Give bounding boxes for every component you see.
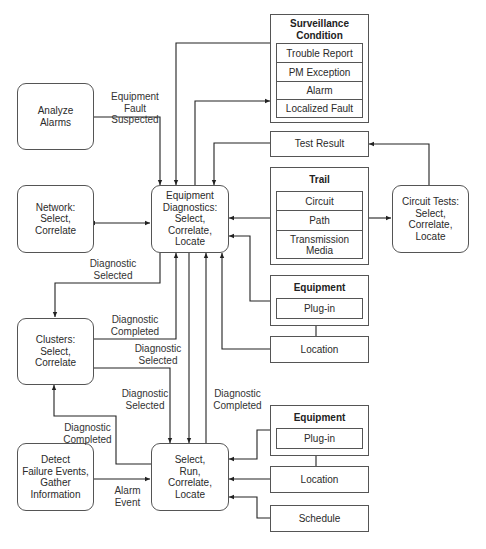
item-pm-exception: PM Exception <box>277 63 362 82</box>
group-title: Surveillance Condition <box>271 18 368 41</box>
entity-location-lower: Location <box>270 466 369 493</box>
edge-test-result-to-ed <box>214 143 270 185</box>
entity-schedule: Schedule <box>270 505 369 532</box>
edge-label-diagnostic-completed: Diagnostic Completed <box>210 388 265 411</box>
process-label: Circuit Tests: Select, Correlate, Locate <box>402 196 459 242</box>
item-alarm: Alarm <box>277 82 362 100</box>
surveillance-items: Trouble Report PM Exception Alarm Locali… <box>276 43 363 118</box>
entity-label: Schedule <box>299 513 341 525</box>
process-label: Network: Select, Correlate <box>35 202 76 237</box>
process-label: Detect Failure Events, Gather Informatio… <box>22 454 89 500</box>
surveillance-condition-group: Surveillance Condition Trouble Report PM… <box>270 14 369 123</box>
edge-surveillance-to-ed <box>176 43 270 185</box>
process-network: Network: Select, Correlate <box>17 185 94 253</box>
item-circuit: Circuit <box>277 192 362 211</box>
item-trouble-report: Trouble Report <box>277 44 362 63</box>
edge-label-alarm-event: Alarm Event <box>110 485 145 508</box>
equipment-group-upper: Equipment Plug-in <box>270 275 369 326</box>
trail-group: Trail Circuit Path Transmission Media <box>270 167 369 265</box>
group-title: Equipment <box>271 282 368 294</box>
edge-label-equipment-fault-suspected: Equipment Fault Suspected <box>100 91 170 126</box>
edge-label-diagnostic-completed: Diagnostic Completed <box>110 314 160 337</box>
item-path: Path <box>277 211 362 231</box>
process-equipment-diagnostics: Equipment Diagnostics: Select, Correlate… <box>151 185 229 253</box>
process-circuit-tests: Circuit Tests: Select, Correlate, Locate <box>392 185 469 253</box>
process-label: Select, Run, Correlate, Locate <box>168 454 212 500</box>
edge-label-diagnostic-completed: Diagnostic Completed <box>60 422 115 445</box>
trail-items: Circuit Path Transmission Media <box>276 191 363 259</box>
entity-location-upper: Location <box>270 336 369 363</box>
edge-label-diagnostic-selected: Diagnostic Selected <box>88 258 138 281</box>
edge-label-diagnostic-selected: Diagnostic Selected <box>120 388 170 411</box>
group-title: Trail <box>271 174 368 186</box>
edge-fault-suspected <box>93 117 160 185</box>
process-clusters: Clusters: Select, Correlate <box>17 318 94 385</box>
entity-label: Test Result <box>295 138 344 150</box>
group-title: Equipment <box>271 412 368 424</box>
item-plug-in: Plug-in <box>276 428 363 449</box>
equipment-group-lower: Equipment Plug-in <box>270 405 369 456</box>
edge-equipment-to-ed <box>229 236 270 301</box>
process-analyze-alarms: Analyze Alarms <box>17 83 94 150</box>
edge-circuit-tests-to-test-result <box>369 144 429 185</box>
process-select-run: Select, Run, Correlate, Locate <box>151 443 229 511</box>
edge-label-diagnostic-selected: Diagnostic Selected <box>133 343 183 366</box>
process-label: Clusters: Select, Correlate <box>35 334 76 369</box>
process-detect-failure-events: Detect Failure Events, Gather Informatio… <box>17 443 94 511</box>
process-label: Equipment Diagnostics: Select, Correlate… <box>163 190 217 248</box>
edge-schedule-to-sr <box>229 497 270 518</box>
item-transmission-media: Transmission Media <box>277 231 362 258</box>
item-localized-fault: Localized Fault <box>277 100 362 117</box>
item-plug-in: Plug-in <box>276 298 363 319</box>
entity-label: Location <box>301 344 339 356</box>
entity-label: Location <box>301 474 339 486</box>
entity-test-result: Test Result <box>270 131 369 157</box>
edge-equipment-lower-to-sr <box>229 430 270 459</box>
process-label: Analyze Alarms <box>38 105 74 128</box>
